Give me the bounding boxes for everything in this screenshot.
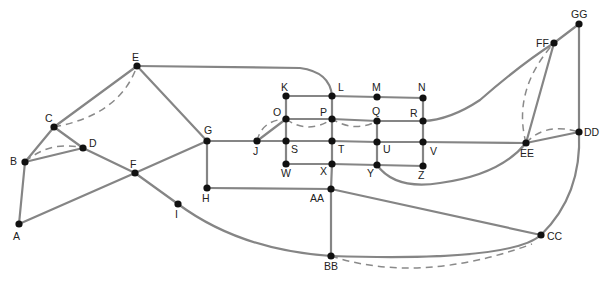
node-u	[373, 138, 380, 145]
node-cc	[537, 231, 544, 238]
node-label-ff: FF	[536, 37, 549, 49]
node-label-e: E	[132, 51, 139, 63]
node-label-q: Q	[372, 105, 380, 117]
edge-a-b	[19, 162, 25, 224]
solid-edges	[19, 24, 579, 257]
node-aa	[327, 185, 334, 192]
node-h	[203, 184, 210, 191]
edge-c-d	[54, 127, 83, 148]
node-label-r: R	[410, 107, 418, 119]
node-bb	[327, 252, 334, 259]
node-c	[50, 123, 57, 130]
node-l	[328, 92, 335, 99]
edge-h-aa	[207, 188, 331, 189]
node-label-y: Y	[367, 167, 374, 179]
node-label-w: W	[281, 167, 291, 179]
node-x	[328, 160, 335, 167]
edge-m-n	[377, 97, 423, 98]
edge-e-g	[137, 66, 207, 141]
node-label-z: Z	[418, 169, 425, 181]
node-label-u: U	[383, 143, 391, 155]
node-o	[282, 115, 289, 122]
edge-i-bb	[178, 204, 331, 256]
edge-d-f	[83, 148, 135, 173]
node-label-d: D	[89, 137, 97, 149]
edge-cc-gg	[541, 132, 579, 235]
edge-bb-cc	[331, 235, 541, 257]
edge-y-ee	[377, 143, 526, 185]
node-ee	[522, 139, 529, 146]
node-f	[131, 169, 138, 176]
node-label-n: N	[418, 81, 426, 93]
node-y	[373, 161, 380, 168]
edge-ee-dd	[526, 132, 579, 143]
node-label-gg: GG	[571, 8, 587, 20]
edge-v-ee	[423, 142, 526, 143]
node-n	[419, 94, 426, 101]
edge-x-y	[332, 164, 377, 165]
node-label-f: F	[130, 158, 136, 170]
node-a	[15, 220, 22, 227]
node-label-b: B	[10, 155, 17, 167]
node-p	[328, 115, 335, 122]
graph-diagram: ABCDEFGHIJKLMNOPQRSTUVWXYZAABBCCDDEEFFGG	[0, 0, 608, 286]
node-label-ee: EE	[520, 147, 534, 159]
node-label-h: H	[202, 192, 210, 204]
node-label-g: G	[204, 124, 212, 136]
edge-y-z	[377, 165, 423, 166]
node-label-l: L	[338, 81, 344, 93]
node-m	[373, 93, 380, 100]
node-s	[282, 137, 289, 144]
node-i	[174, 200, 181, 207]
node-v	[419, 138, 426, 145]
node-label-a: A	[13, 230, 20, 242]
node-d	[79, 144, 86, 151]
edge-ee-ff	[526, 43, 554, 143]
node-label-i: I	[175, 208, 178, 220]
node-label-c: C	[45, 112, 53, 124]
dashed-edges	[25, 43, 579, 268]
node-dd	[575, 128, 582, 135]
node-b	[21, 158, 28, 165]
node-label-k: K	[281, 81, 288, 93]
edge-e-l	[137, 66, 332, 96]
node-label-s: S	[291, 143, 298, 155]
node-gg	[575, 20, 582, 27]
node-j	[253, 137, 260, 144]
node-label-j: J	[253, 145, 258, 157]
node-label-x: X	[320, 165, 327, 177]
node-label-cc: CC	[547, 230, 563, 242]
edge-x-aa	[331, 164, 332, 189]
node-label-dd: DD	[584, 126, 600, 138]
node-q	[373, 117, 380, 124]
edge-p-q	[332, 119, 377, 121]
node-label-t: T	[338, 143, 345, 155]
node-k	[282, 92, 289, 99]
node-label-o: O	[273, 106, 281, 118]
edge-f-i	[135, 173, 178, 204]
node-label-m: M	[372, 81, 381, 93]
edge-t-u	[332, 141, 377, 142]
edge-ff-gg	[554, 24, 579, 43]
edge-aa-cc	[331, 189, 541, 235]
node-ff	[550, 39, 557, 46]
node-label-p: P	[320, 106, 327, 118]
node-label-aa: AA	[310, 192, 324, 204]
edge-c-e	[54, 66, 137, 127]
node-label-bb: BB	[324, 260, 338, 272]
node-label-v: V	[430, 145, 437, 157]
edge-a-f	[19, 173, 135, 224]
edge-l-m	[332, 96, 377, 97]
node-e	[133, 62, 140, 69]
node-g	[203, 137, 210, 144]
node-r	[419, 117, 426, 124]
node-t	[328, 137, 335, 144]
edge-f-g	[135, 141, 207, 173]
